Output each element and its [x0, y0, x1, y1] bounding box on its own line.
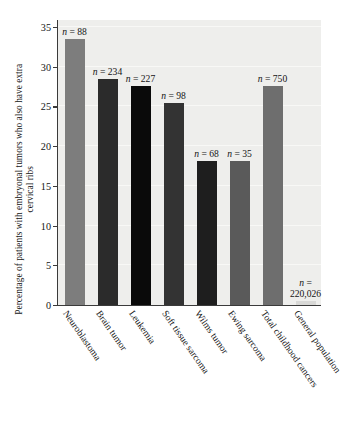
- y-tick-label: 0: [46, 300, 51, 311]
- n-symbol: n: [126, 73, 131, 84]
- x-axis-label: Leukemia: [126, 308, 157, 346]
- n-symbol: n: [62, 26, 67, 37]
- n-symbol: n: [227, 148, 232, 159]
- bar[interactable]: n = 98: [164, 103, 184, 305]
- bar-value-annotation: n = 750: [258, 73, 287, 84]
- bar-value-annotation: n = 234: [93, 66, 122, 77]
- bar-value-annotation: n = 227: [126, 73, 155, 84]
- n-symbol: n: [194, 148, 199, 159]
- bar[interactable]: n = 68: [197, 161, 217, 305]
- n-symbol: n: [258, 73, 263, 84]
- bar[interactable]: n = 234: [98, 79, 118, 305]
- bar-value-annotation: n = 88: [62, 26, 87, 37]
- x-axis-label: Total childhood cancers: [258, 308, 320, 389]
- bar[interactable]: n = 227: [131, 86, 151, 305]
- y-tick-label: 20: [41, 141, 51, 152]
- y-tick-mark: [53, 305, 58, 306]
- y-tick-label: 25: [41, 101, 51, 112]
- bar[interactable]: n = 750: [263, 86, 283, 305]
- n-symbol: n: [93, 66, 98, 77]
- bar[interactable]: n = 35: [230, 161, 250, 305]
- bar-value-annotation: n = 35: [227, 148, 252, 159]
- y-axis-title: Percentage of patients with embryonal tu…: [14, 60, 37, 318]
- y-tick-label: 35: [41, 21, 51, 32]
- plot-area: 05101520253035 n = 88n = 234n = 227n = 9…: [57, 20, 321, 306]
- bar-value-annotation: n = 68: [194, 148, 219, 159]
- bar[interactable]: n =220,026: [296, 301, 316, 305]
- y-tick-label: 10: [41, 220, 51, 231]
- n-symbol: n: [161, 90, 166, 101]
- x-axis-label: Wilms tumor: [192, 308, 230, 356]
- y-tick-label: 30: [41, 61, 51, 72]
- y-tick-label: 15: [41, 180, 51, 191]
- y-tick-label: 5: [46, 260, 51, 271]
- x-axis-category-labels: NeuroblastomaBrain tumorLeukemiaSoft tis…: [57, 308, 321, 436]
- x-axis-label: Brain tumor: [93, 308, 129, 353]
- bar[interactable]: n = 88: [65, 39, 85, 305]
- n-symbol: n: [299, 277, 304, 288]
- bar-value-annotation: n =220,026: [276, 278, 336, 299]
- bar-value-annotation: n = 98: [161, 90, 186, 101]
- bars-group: n = 88n = 234n = 227n = 98n = 68n = 35n …: [58, 20, 321, 305]
